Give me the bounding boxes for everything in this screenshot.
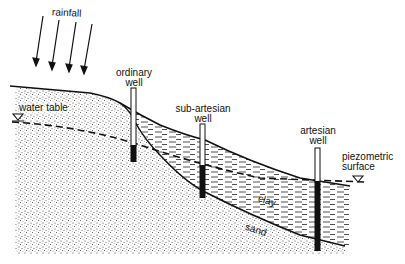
ordinary-well bbox=[131, 88, 137, 162]
rainfall-label: rainfall bbox=[52, 7, 82, 19]
sub-artesian-well-label: sub-artesian well bbox=[172, 104, 234, 124]
artesian-well-label: artesian well bbox=[295, 126, 341, 146]
diagram-canvas bbox=[0, 0, 405, 264]
water-table-label: water table bbox=[19, 103, 68, 113]
artesian-well bbox=[315, 148, 321, 251]
piezometric-surface-label: piezometric surface bbox=[342, 152, 393, 172]
ordinary-well-label: ordinary well bbox=[110, 68, 158, 88]
groundwater-diagram: rainfall ordinary well sub-artesian well… bbox=[0, 0, 405, 264]
rainfall-arrows-icon bbox=[33, 16, 92, 74]
sub-artesian-well bbox=[200, 124, 206, 198]
